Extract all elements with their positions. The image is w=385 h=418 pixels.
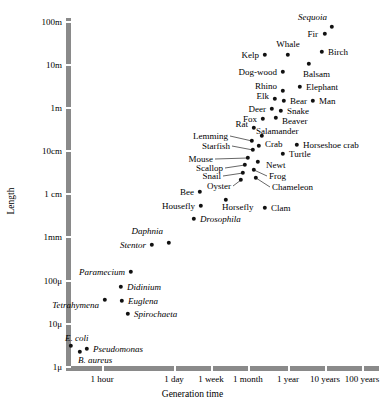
point-label: Newt bbox=[266, 161, 286, 170]
y-axis-title: Length bbox=[6, 177, 16, 225]
x-tick-label: 1 year bbox=[277, 374, 299, 384]
y-tick-label: 100m bbox=[41, 18, 62, 27]
point-label: Salamander bbox=[256, 127, 298, 136]
point-label: Starfish bbox=[202, 142, 230, 151]
y-tick-label: 10m bbox=[46, 61, 62, 70]
data-point bbox=[252, 168, 256, 172]
data-point bbox=[261, 117, 265, 121]
data-point bbox=[198, 190, 202, 194]
point-label: Rat bbox=[236, 120, 249, 129]
point-label: Drosophila bbox=[200, 215, 241, 224]
point-label: Frog bbox=[269, 172, 286, 181]
point-label: Kelp bbox=[242, 51, 260, 60]
point-label: Balsam bbox=[303, 70, 330, 79]
x-tick-label: 100 years bbox=[345, 374, 380, 384]
data-point bbox=[239, 178, 243, 182]
point-label: Bee bbox=[180, 188, 194, 197]
point-label: Horseshoe crab bbox=[303, 141, 359, 150]
point-label: Elephant bbox=[306, 83, 338, 92]
data-point bbox=[295, 143, 299, 147]
data-point bbox=[281, 152, 285, 156]
point-label: Clam bbox=[271, 204, 291, 213]
data-point bbox=[320, 50, 324, 54]
point-label: Lemming bbox=[193, 132, 228, 141]
y-tick-label: 100μ bbox=[44, 277, 62, 286]
data-point bbox=[126, 312, 130, 316]
point-label: Man bbox=[319, 97, 336, 106]
point-label: Birch bbox=[328, 48, 348, 57]
data-point bbox=[263, 53, 267, 57]
point-label: E. coli bbox=[65, 334, 89, 343]
y-tick-label: 10μ bbox=[48, 320, 62, 329]
point-label: Spirochaeta bbox=[134, 310, 177, 319]
data-point bbox=[199, 204, 203, 208]
point-label: B. aureus bbox=[78, 356, 112, 365]
point-label: Oyster bbox=[207, 182, 231, 191]
y-tick-label: 1μ bbox=[53, 363, 62, 372]
point-label: Paramecium bbox=[79, 268, 125, 277]
data-point bbox=[250, 139, 254, 143]
data-point bbox=[129, 270, 133, 274]
data-point bbox=[274, 116, 278, 120]
y-tick-label: 1m bbox=[50, 104, 62, 113]
point-label: Horsefly bbox=[222, 203, 254, 212]
y-tick-label: 10cm bbox=[42, 147, 62, 156]
data-point bbox=[256, 160, 260, 164]
data-point bbox=[150, 243, 154, 247]
chart-figure: 100m10m1m10cm1 cm1mm100μ10μ1μ 1 hour1 da… bbox=[0, 0, 385, 418]
data-point bbox=[251, 148, 255, 152]
point-label: Chameleon bbox=[272, 183, 313, 192]
data-point bbox=[281, 70, 285, 74]
y-tick-label: 1mm bbox=[43, 233, 62, 242]
point-label: Didinium bbox=[127, 283, 161, 292]
data-point bbox=[69, 344, 73, 348]
point-label: Daphnia bbox=[132, 227, 164, 236]
point-label: Euglena bbox=[128, 297, 158, 306]
point-label: Sequoia bbox=[298, 13, 327, 22]
data-point bbox=[298, 85, 302, 89]
data-point bbox=[120, 299, 124, 303]
data-point bbox=[307, 62, 311, 66]
data-point bbox=[246, 156, 250, 160]
x-axis-title: Generation time bbox=[0, 389, 385, 399]
point-label: Beaver bbox=[282, 117, 307, 126]
x-axis-line bbox=[66, 366, 379, 371]
data-point bbox=[279, 109, 283, 113]
point-label: Tetrahymena bbox=[52, 301, 99, 310]
point-label: Crab bbox=[265, 140, 283, 149]
data-point bbox=[167, 241, 171, 245]
point-label: Rhino bbox=[255, 82, 277, 91]
data-point bbox=[263, 206, 267, 210]
x-tick-label: 1 month bbox=[233, 374, 263, 384]
point-label: Pseudomonas bbox=[93, 345, 143, 354]
data-point bbox=[241, 171, 245, 175]
data-point bbox=[119, 285, 123, 289]
data-point bbox=[103, 298, 107, 302]
data-point bbox=[273, 97, 277, 101]
data-point bbox=[85, 347, 89, 351]
point-label: Stentor bbox=[120, 241, 146, 250]
data-point bbox=[270, 107, 274, 111]
data-point bbox=[192, 217, 196, 221]
x-tick-label: 1 week bbox=[198, 374, 224, 384]
point-label: Fir bbox=[307, 30, 318, 39]
data-point bbox=[330, 25, 334, 29]
x-tick-label: 1 day bbox=[164, 374, 184, 384]
x-tick-label: 10 years bbox=[310, 374, 340, 384]
data-point bbox=[254, 176, 258, 180]
point-label: Snake bbox=[287, 107, 309, 116]
data-point bbox=[257, 144, 261, 148]
data-point bbox=[281, 89, 285, 93]
data-point bbox=[286, 53, 290, 57]
data-point bbox=[323, 32, 327, 36]
point-label: Turtle bbox=[289, 150, 311, 159]
point-label: Elk bbox=[257, 92, 270, 101]
data-point bbox=[282, 99, 286, 103]
point-label: Dog-wood bbox=[239, 68, 278, 77]
point-label: Snail bbox=[202, 172, 221, 181]
data-point bbox=[243, 163, 247, 167]
point-label: Bear bbox=[290, 97, 307, 106]
point-label: Whale bbox=[276, 40, 299, 49]
point-label: Housefly bbox=[162, 202, 195, 211]
point-label: Deer bbox=[249, 105, 267, 114]
